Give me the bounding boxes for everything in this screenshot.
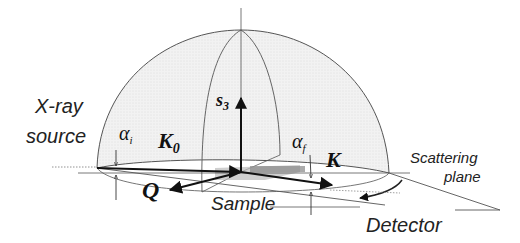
sample-label: Sample	[211, 193, 275, 214]
q-vector	[170, 172, 241, 190]
source-label-line2: source	[26, 125, 86, 147]
scattering-plane-label-line2: plane	[443, 168, 481, 185]
sample-block	[250, 166, 305, 172]
q-label: Q	[142, 177, 159, 203]
detector-label: Detector	[366, 214, 443, 236]
scattering-plane-label-line1: Scattering	[410, 149, 478, 166]
scattering-geometry-diagram: X-ray source αi K0 s3 αf K Q Sample Scat…	[0, 0, 520, 243]
source-label-line1: X-ray	[34, 95, 84, 117]
hemisphere-dome	[97, 30, 389, 173]
k-label: K	[325, 147, 342, 172]
